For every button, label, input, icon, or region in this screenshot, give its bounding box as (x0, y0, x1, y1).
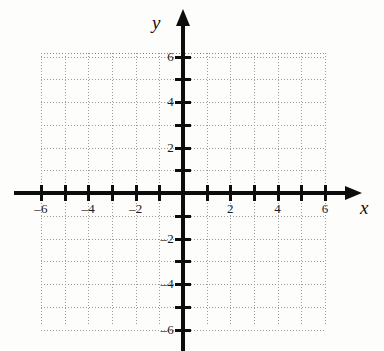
x-axis-tick (324, 185, 327, 201)
y-axis-tick (175, 260, 191, 263)
y-tick-label: –2 (148, 231, 174, 247)
y-axis-tick (175, 329, 191, 332)
y-axis-tick (175, 56, 191, 59)
y-axis-tick (175, 101, 191, 104)
y-axis-arrow-icon (176, 9, 190, 26)
x-axis-tick (64, 185, 67, 201)
coordinate-plane-figure: –6–4–2246 642–2–4–6 x y (0, 0, 384, 351)
y-tick-label: –4 (148, 276, 174, 292)
x-tick-label: 2 (217, 201, 243, 217)
y-tick-label: 6 (148, 49, 174, 65)
x-axis-tick (158, 185, 161, 201)
y-axis-tick (175, 124, 191, 127)
x-axis-tick (229, 185, 232, 201)
y-axis-label: y (152, 12, 160, 34)
x-axis-tick (300, 185, 303, 201)
y-axis-tick (175, 147, 191, 150)
x-axis-label: x (360, 197, 368, 219)
x-axis-tick (111, 185, 114, 201)
x-tick-label: 6 (312, 201, 338, 217)
x-axis-tick (135, 185, 138, 201)
y-axis-tick (175, 283, 191, 286)
x-axis-tick (277, 185, 280, 201)
y-axis-tick (175, 306, 191, 309)
x-tick-label: –6 (28, 201, 54, 217)
x-axis-tick (87, 185, 90, 201)
x-axis-tick (206, 185, 209, 201)
x-tick-label: 4 (265, 201, 291, 217)
y-tick-label: 4 (148, 94, 174, 110)
y-tick-label: –6 (148, 322, 174, 338)
y-axis-tick (175, 215, 191, 218)
x-axis-tick (253, 185, 256, 201)
y-axis-tick (175, 169, 191, 172)
y-axis-tick (175, 78, 191, 81)
x-tick-label: –2 (123, 201, 149, 217)
x-tick-label: –4 (75, 201, 101, 217)
x-axis-tick (40, 185, 43, 201)
y-axis-line (181, 24, 185, 351)
y-tick-label: 2 (148, 140, 174, 156)
y-axis-tick (175, 238, 191, 241)
